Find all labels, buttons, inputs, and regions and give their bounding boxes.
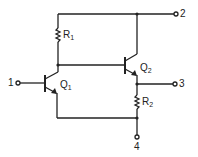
transistor-q1-collector bbox=[45, 72, 58, 79]
terminal-1-label: 1 bbox=[8, 78, 14, 88]
transistor-q2-collector bbox=[125, 54, 137, 61]
junction-dot bbox=[135, 82, 138, 85]
junction-dot bbox=[56, 63, 59, 66]
terminal-3-circle bbox=[173, 82, 177, 86]
r2-label: R2 bbox=[142, 97, 153, 110]
terminal-2-circle bbox=[174, 12, 178, 16]
terminal-1-circle bbox=[16, 81, 20, 85]
terminal-3-label: 3 bbox=[179, 79, 185, 89]
q2-label: Q2 bbox=[140, 63, 152, 76]
junction-dot bbox=[135, 116, 138, 119]
r1-label: R1 bbox=[63, 30, 74, 43]
terminal-4-label: 4 bbox=[134, 142, 140, 152]
q1-label: Q1 bbox=[60, 80, 72, 93]
resistor-r2 bbox=[135, 95, 139, 109]
junction-dot bbox=[135, 12, 138, 15]
resistor-r1 bbox=[56, 28, 60, 42]
terminal-4-circle bbox=[135, 135, 139, 139]
circuit-schematic bbox=[0, 0, 198, 157]
terminal-2-label: 2 bbox=[180, 9, 186, 19]
